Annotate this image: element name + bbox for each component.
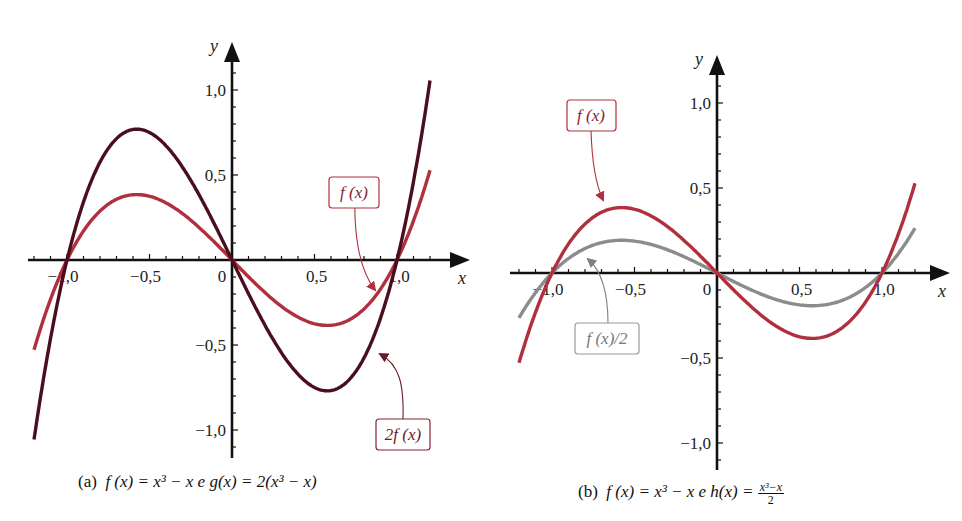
y-tick-label: 0,5: [205, 166, 226, 185]
y-tick-label: −1,0: [195, 421, 226, 440]
x-axis-label: x: [457, 268, 466, 288]
label-fx-b: f (x): [577, 106, 605, 125]
chart-panel-b: −1,0−0,500,51,01,00,5−0,5−1,0xy f (x) f …: [510, 49, 950, 470]
caption-b-text: f (x) = x³ − x e h(x) =: [606, 482, 757, 501]
x-axis-arrow-icon: [930, 265, 950, 281]
arrow-icon: [380, 354, 403, 420]
y-tick-label: −0,5: [680, 349, 711, 368]
x-axis-arrow-icon: [450, 252, 470, 268]
y-tick-label: −1,0: [680, 434, 711, 453]
y-axis-label: y: [208, 36, 218, 56]
y-axis-label: y: [693, 49, 703, 69]
caption-a-text: f (x) = x³ − x e g(x) = 2(x³ − x): [105, 472, 316, 491]
x-tick-label: −0,5: [130, 267, 161, 286]
label-fx-a: f (x): [340, 183, 368, 202]
caption-a: (a) f (x) = x³ − x e g(x) = 2(x³ − x): [78, 472, 317, 492]
arrow-icon: [591, 130, 603, 200]
label-2fx-a: 2f (x): [385, 425, 422, 444]
fraction-denominator: 2: [758, 494, 784, 506]
x-axis-label: x: [937, 281, 946, 301]
figure-canvas: −1,0−0,500,51,01,00,5−0,5−1,0xy f (x) 2f…: [0, 0, 962, 521]
y-axis-arrow-icon: [224, 42, 240, 62]
caption-b-fraction: x³−x 2: [758, 481, 784, 506]
x-tick-label: 0: [703, 280, 712, 299]
arrow-icon: [355, 198, 375, 290]
annotation-fx-b: f (x): [567, 100, 616, 200]
x-tick-label: −0,5: [615, 280, 646, 299]
x-tick-label: 0: [218, 267, 227, 286]
caption-b: (b) f (x) = x³ − x e h(x) = x³−x 2: [578, 481, 784, 506]
caption-a-prefix: (a): [78, 472, 97, 491]
annotation-fx-a: f (x): [329, 177, 379, 290]
y-tick-label: 1,0: [205, 81, 226, 100]
arrow-icon: [588, 259, 608, 323]
label-fx-half-b: f (x)/2: [586, 329, 628, 348]
annotation-2fx-a: 2f (x): [376, 354, 430, 450]
x-tick-label: 0,5: [306, 267, 327, 286]
y-axis-arrow-icon: [709, 55, 725, 75]
y-tick-label: −0,5: [195, 336, 226, 355]
chart-panel-a: −1,0−0,500,51,01,00,5−0,5−1,0xy f (x) 2f…: [28, 36, 470, 458]
y-tick-label: 0,5: [690, 179, 711, 198]
x-tick-label: 0,5: [791, 280, 812, 299]
y-tick-label: 1,0: [690, 94, 711, 113]
caption-b-prefix: (b): [578, 482, 598, 501]
